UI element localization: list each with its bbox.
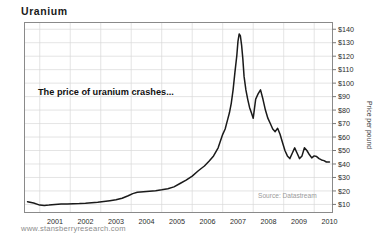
svg-text:$20: $20 [338,187,350,196]
footer-website-url: www.stansberryresearch.com [21,224,126,233]
source-attribution: Source: Datastream [258,192,317,199]
chart-annotation: The price of uranium crashes... [38,87,174,97]
svg-text:2005: 2005 [169,217,185,226]
svg-text:$90: $90 [338,92,350,101]
svg-text:$60: $60 [338,133,350,142]
svg-text:2007: 2007 [230,217,246,226]
uranium-price-line-series [28,34,330,206]
svg-text:$130: $130 [338,38,354,47]
svg-text:$40: $40 [338,160,350,169]
uranium-price-chart-figure: Uranium $10$20$30$40$50$60$70$80$90$100$… [0,0,379,244]
y-axis-tick-labels: $10$20$30$40$50$60$70$80$90$100$110$120$… [338,25,354,209]
svg-text:$10: $10 [338,200,350,209]
y-axis-title: Price per pound [365,101,373,149]
svg-text:2004: 2004 [138,217,154,226]
vertical-gridlines [40,23,314,213]
svg-text:$50: $50 [338,146,350,155]
svg-text:$110: $110 [338,65,353,74]
chart-plot-area: $10$20$30$40$50$60$70$80$90$100$110$120$… [0,0,379,244]
horizontal-gridlines [25,29,333,204]
svg-text:$140: $140 [338,25,354,34]
svg-text:2010: 2010 [321,217,337,226]
svg-text:$120: $120 [338,52,354,61]
svg-text:$80: $80 [338,106,350,115]
y-axis-tick-marks [333,29,337,204]
svg-text:$100: $100 [338,79,354,88]
svg-text:2006: 2006 [199,217,215,226]
svg-text:2008: 2008 [260,217,276,226]
svg-text:2009: 2009 [291,217,307,226]
svg-text:$70: $70 [338,119,350,128]
svg-text:$30: $30 [338,173,350,182]
